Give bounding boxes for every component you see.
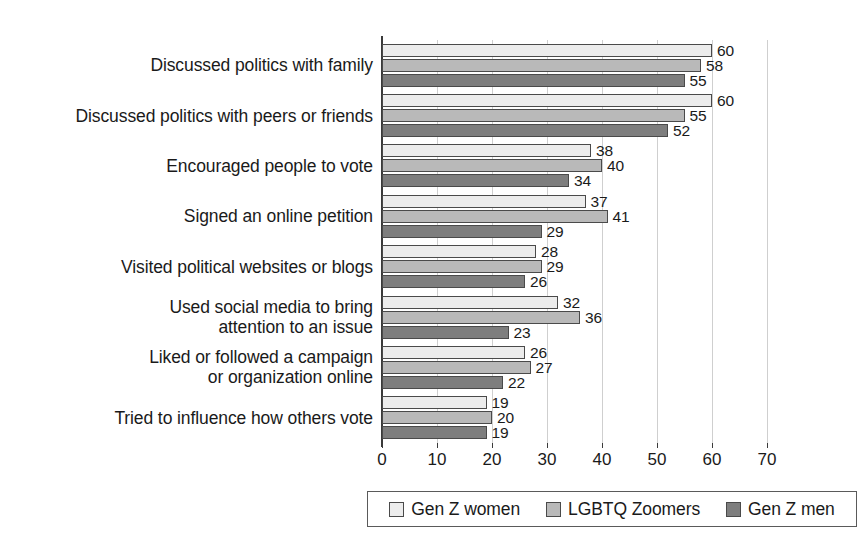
x-axis-tick-mark xyxy=(657,443,658,448)
bar-value-label: 32 xyxy=(563,295,580,310)
bar xyxy=(382,260,542,273)
bar xyxy=(382,346,525,359)
bar-value-label: 19 xyxy=(492,425,509,440)
bar xyxy=(382,109,685,122)
bar xyxy=(382,94,712,107)
bar xyxy=(382,210,608,223)
x-axis-tick-label: 10 xyxy=(428,450,447,470)
gridline xyxy=(767,40,768,443)
bar xyxy=(382,326,509,339)
bar-value-label: 60 xyxy=(717,93,734,108)
chart-legend: Gen Z womenLGBTQ ZoomersGen Z men xyxy=(367,491,857,527)
bar-value-label: 26 xyxy=(530,345,547,360)
bar xyxy=(382,225,542,238)
x-axis-tick-label: 70 xyxy=(758,450,777,470)
x-axis-tick-label: 60 xyxy=(703,450,722,470)
bar xyxy=(382,74,685,87)
category-axis-labels: Discussed politics with familyDiscussed … xyxy=(0,40,373,443)
bar-value-label: 19 xyxy=(492,395,509,410)
bar xyxy=(382,376,503,389)
bar-value-label: 37 xyxy=(591,194,608,209)
x-axis-tick-mark xyxy=(382,443,383,448)
legend-label: Gen Z women xyxy=(411,499,520,520)
bar-value-label: 29 xyxy=(547,259,564,274)
bar xyxy=(382,275,525,288)
bar xyxy=(382,159,602,172)
bar-value-label: 40 xyxy=(607,158,624,173)
bar-value-label: 29 xyxy=(547,224,564,239)
value-axis: 010203040506070 xyxy=(382,443,767,473)
bar-value-label: 38 xyxy=(596,143,613,158)
bar-value-label: 41 xyxy=(613,209,630,224)
bar xyxy=(382,296,558,309)
bar xyxy=(382,144,591,157)
x-axis-tick-mark xyxy=(547,443,548,448)
legend-item[interactable]: Gen Z women xyxy=(389,499,520,520)
x-axis-tick-label: 0 xyxy=(377,450,386,470)
bar-value-label: 22 xyxy=(508,375,525,390)
plot-area: 6058556055523840343741292829263236232627… xyxy=(382,40,767,443)
bar-value-label: 28 xyxy=(541,244,558,259)
x-axis-tick-label: 20 xyxy=(483,450,502,470)
x-axis-tick-label: 50 xyxy=(648,450,667,470)
legend-item[interactable]: Gen Z men xyxy=(726,499,835,520)
legend-label: Gen Z men xyxy=(748,499,835,520)
bar xyxy=(382,195,586,208)
legend-swatch-gen-z-women xyxy=(389,502,404,517)
category-label: Tried to influence how others vote xyxy=(0,408,373,428)
bar-value-label: 55 xyxy=(690,108,707,123)
bar xyxy=(382,245,536,258)
category-label: Visited political websites or blogs xyxy=(0,257,373,277)
x-axis-tick-mark xyxy=(767,443,768,448)
category-label: Discussed politics with family xyxy=(0,55,373,75)
bar-value-label: 55 xyxy=(690,73,707,88)
legend-swatch-gen-z-men xyxy=(726,502,741,517)
bar-value-label: 23 xyxy=(514,325,531,340)
bar-value-label: 26 xyxy=(530,274,547,289)
bar-value-label: 34 xyxy=(574,173,591,188)
bar-value-label: 36 xyxy=(585,310,602,325)
bar xyxy=(382,311,580,324)
x-axis-tick-label: 40 xyxy=(593,450,612,470)
bar-value-label: 58 xyxy=(706,58,723,73)
bar-value-label: 60 xyxy=(717,43,734,58)
bar xyxy=(382,361,531,374)
legend-swatch-lgbtq-zoomers xyxy=(546,502,561,517)
bar xyxy=(382,396,487,409)
x-axis-tick-label: 30 xyxy=(538,450,557,470)
category-label: Discussed politics with peers or friends xyxy=(0,106,373,126)
bar-value-label: 20 xyxy=(497,410,514,425)
legend-item[interactable]: LGBTQ Zoomers xyxy=(546,499,700,520)
x-axis-tick-mark xyxy=(492,443,493,448)
bar xyxy=(382,124,668,137)
category-label: Used social media to bring attention to … xyxy=(0,297,373,337)
gridline xyxy=(712,40,713,443)
bar xyxy=(382,59,701,72)
bar-value-label: 52 xyxy=(673,123,690,138)
bar-chart: Discussed politics with familyDiscussed … xyxy=(0,0,862,559)
category-label: Liked or followed a campaign or organiza… xyxy=(0,347,373,387)
bar xyxy=(382,44,712,57)
x-axis-tick-mark xyxy=(437,443,438,448)
legend-label: LGBTQ Zoomers xyxy=(568,499,700,520)
x-axis-tick-mark xyxy=(602,443,603,448)
bar-value-label: 27 xyxy=(536,360,553,375)
bar xyxy=(382,411,492,424)
category-label: Encouraged people to vote xyxy=(0,156,373,176)
bar xyxy=(382,174,569,187)
bar xyxy=(382,426,487,439)
x-axis-tick-mark xyxy=(712,443,713,448)
category-label: Signed an online petition xyxy=(0,206,373,226)
